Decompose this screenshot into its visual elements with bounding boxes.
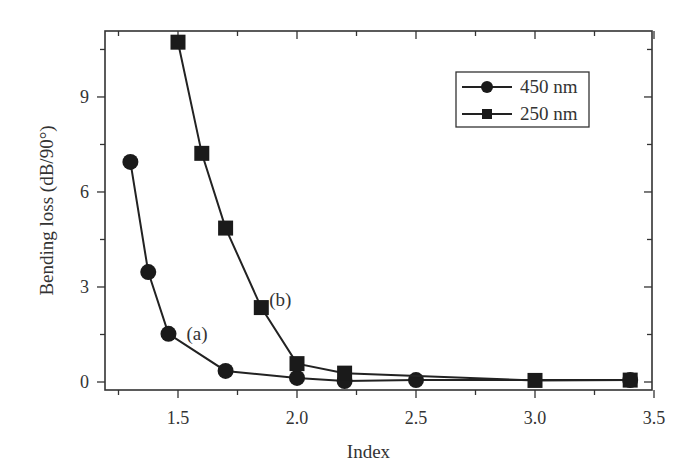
square-marker [528,373,543,388]
y-tick-label: 9 [80,87,89,107]
chart: 1.52.02.53.03.50369IndexBending loss (dB… [0,0,693,472]
square-marker [623,373,638,388]
y-axis-title: Bending loss (dB/90°) [36,125,58,295]
x-tick-label: 3.0 [524,408,547,428]
legend-label: 450 nm [520,76,578,97]
x-tick-label: 3.5 [643,408,666,428]
circle-marker [218,363,234,379]
circle-marker [408,372,424,388]
annotation-label: (b) [269,289,291,311]
y-tick-label: 3 [80,277,89,297]
x-tick-label: 2.5 [405,408,428,428]
legend-square-icon [482,109,492,119]
axis-labels: 1.52.02.53.03.50369IndexBending loss (dB… [36,87,665,462]
circle-marker [160,326,176,342]
square-marker [290,356,305,371]
circle-marker [122,154,138,170]
x-tick-label: 2.0 [286,408,309,428]
y-tick-label: 0 [80,372,89,392]
annotation-label: (a) [186,323,207,345]
circle-marker [289,370,305,386]
square-marker [254,300,269,315]
series-line-450-nm [130,162,630,381]
square-marker [194,146,209,161]
square-marker [171,35,186,50]
x-tick-label: 1.5 [167,408,190,428]
legend: 450 nm250 nm [456,72,589,127]
square-marker [218,221,233,236]
square-marker [337,366,352,381]
legend-label: 250 nm [520,103,578,124]
x-axis-title: Index [347,441,391,462]
legend-circle-icon [481,81,493,93]
circle-marker [140,264,156,280]
y-tick-label: 6 [80,182,89,202]
